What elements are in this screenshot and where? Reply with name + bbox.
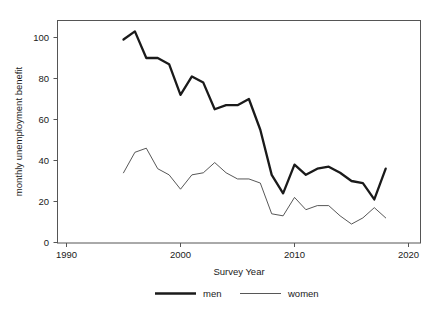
x-tick-label-1990: 1990 [56, 249, 77, 260]
y-tick-label-0: 0 [44, 237, 49, 248]
y-tick-label-20: 20 [38, 196, 49, 207]
legend-label-women: women [287, 288, 319, 299]
y-tick-label-100: 100 [33, 32, 49, 43]
unemployment-benefit-line-chart: 100 80 60 40 20 0 1990 2000 2010 2020 Su… [0, 0, 441, 313]
x-tick-label-2020: 2020 [398, 249, 419, 260]
legend-label-men: men [203, 288, 221, 299]
y-tick-label-60: 60 [38, 114, 49, 125]
y-tick-label-40: 40 [38, 155, 49, 166]
y-axis-label: monthly unemployment benefit [13, 66, 24, 196]
x-tick-label-2010: 2010 [284, 249, 305, 260]
x-axis-label: Survey Year [213, 266, 264, 277]
y-tick-label-80: 80 [38, 73, 49, 84]
x-tick-label-2000: 2000 [170, 249, 191, 260]
